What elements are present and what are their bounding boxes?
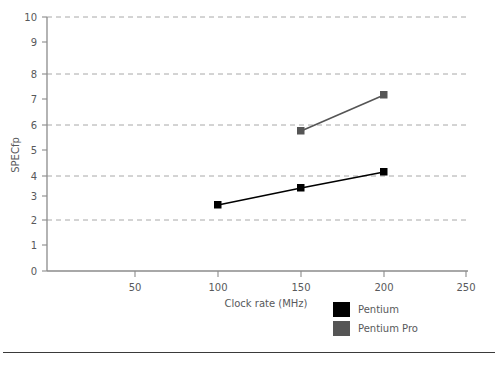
data-point-marker [380,168,388,176]
x-axis-title: Clock rate (MHz) [224,298,307,309]
series-line-pentium-pro [301,95,384,131]
chart-legend: Pentium Pentium Pro [333,301,418,337]
gridlines [47,17,468,220]
y-tick-label: 0 [31,266,37,277]
y-axis-title: SPECfp [10,137,21,173]
y-axis-ticks [42,17,47,271]
y-tick-label: 10 [24,12,37,23]
y-axis-tick-labels: 10 9 8 7 6 5 4 3 2 1 0 [24,12,37,277]
legend-swatch-pentium-pro [333,321,350,336]
legend-item-pentium-pro: Pentium Pro [333,320,418,337]
data-point-marker [297,184,305,192]
legend-item-pentium: Pentium [333,301,418,318]
y-tick-label: 3 [31,191,37,202]
data-point-marker [214,201,222,209]
x-tick-label: 200 [374,282,393,293]
x-tick-label: 50 [129,282,142,293]
chart-figure: 10 9 8 7 6 5 4 3 2 1 0 50 100 150 200 25… [0,0,498,367]
y-tick-label: 6 [31,120,37,131]
y-tick-label: 7 [31,94,37,105]
series-pentium-pro [297,91,388,135]
chart-plot-area: 10 9 8 7 6 5 4 3 2 1 0 50 100 150 200 25… [0,0,498,367]
y-tick-label: 8 [31,69,37,80]
x-axis-tick-labels: 50 100 150 200 250 [129,282,476,293]
data-point-marker [380,91,388,99]
x-tick-label: 250 [456,282,475,293]
y-tick-label: 4 [31,171,37,182]
legend-label-pentium: Pentium [358,305,399,315]
x-tick-label: 100 [208,282,227,293]
legend-label-pentium-pro: Pentium Pro [358,324,418,334]
y-tick-label: 5 [31,145,37,156]
x-axis-ticks [135,271,466,277]
series-pentium [214,168,388,209]
x-tick-label: 150 [291,282,310,293]
y-tick-label: 9 [31,37,37,48]
data-point-marker [297,127,305,135]
footer-divider [3,352,495,353]
y-tick-label: 1 [31,240,37,251]
legend-swatch-pentium [333,302,350,317]
y-tick-label: 2 [31,215,37,226]
